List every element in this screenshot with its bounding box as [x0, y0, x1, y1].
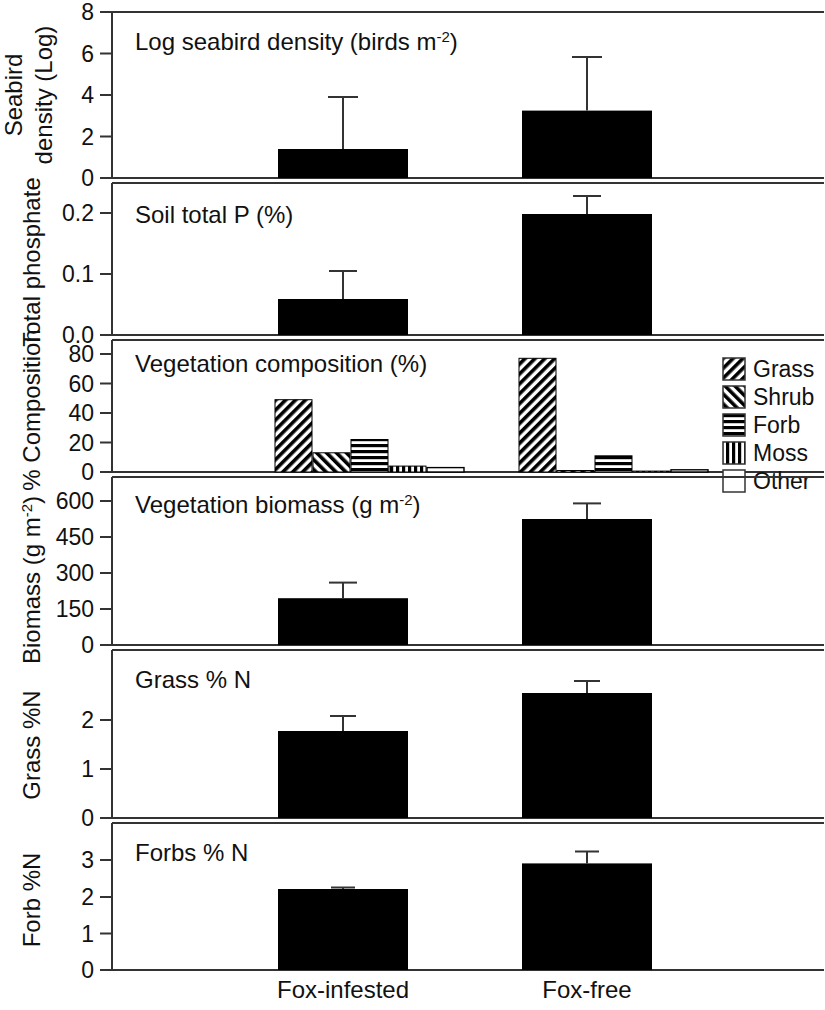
panel3-ytick-label-80: 80	[68, 341, 94, 367]
panel3-bar-shrub-fox-infested	[313, 453, 350, 472]
panel4-ytick-label-0: 0	[81, 632, 94, 658]
legend-swatch-forb	[723, 414, 745, 436]
panel3-bar-moss-fox-free	[633, 471, 670, 472]
panel6-axis-label: Forb %N	[18, 853, 45, 948]
panel2-bar-fox-free	[522, 214, 652, 335]
legend-label-grass: Grass	[753, 356, 814, 382]
panel3-ytick-label-20: 20	[68, 430, 94, 456]
xaxis-label-fox-free: Fox-free	[542, 976, 631, 1003]
panel6-title: Forbs % N	[135, 839, 248, 866]
legend-label-other: Other	[753, 468, 811, 494]
panel3-bar-other-fox-free	[671, 470, 708, 472]
panel3-ytick-label-60: 60	[68, 371, 94, 397]
panel6-bar-fox-free	[522, 863, 652, 970]
xaxis-label-fox-infested: Fox-infested	[277, 976, 409, 1003]
panel4-axis-label: Biomass (g m-2)	[18, 496, 45, 664]
legend-label-moss: Moss	[753, 440, 808, 466]
legend-item-other: Other	[723, 468, 811, 494]
panel4-bar-fox-infested	[278, 598, 408, 645]
panel3-bar-forb-fox-infested	[351, 440, 388, 473]
panel6-bar-fox-infested	[278, 889, 408, 970]
panel2-bar-fox-infested	[278, 299, 408, 335]
panel5-bar-fox-free	[522, 693, 652, 818]
panel1-ytick-label-8: 8	[81, 0, 94, 25]
panel2-axis-label: Total phosphate	[18, 177, 45, 346]
panel3-bar-moss-fox-infested	[389, 466, 426, 472]
panel1-ytick-label-2: 2	[81, 124, 94, 150]
panel4-ytick-label-450: 450	[56, 524, 94, 550]
panel4-ytick-label-600: 600	[56, 488, 94, 514]
panel3-axis-label: % Composition	[18, 329, 45, 490]
panel1-bar-fox-infested	[278, 149, 408, 178]
panel4-bar-fox-free	[522, 519, 652, 645]
panel6-ytick-label-3: 3	[81, 847, 94, 873]
panel3-bar-forb-fox-free	[595, 456, 632, 472]
panel1-axis-label-line1: Seabird	[0, 54, 27, 137]
panel3-ytick-label-40: 40	[68, 400, 94, 426]
panel1-ytick-label-4: 4	[81, 82, 94, 108]
panel6-ytick-label-0: 0	[81, 957, 94, 983]
legend-item-shrub: Shrub	[723, 384, 814, 410]
panel6-ytick-label-2: 2	[81, 884, 94, 910]
panel3-bar-shrub-fox-free	[557, 471, 594, 473]
panel3-ytick-label-0: 0	[81, 459, 94, 485]
legend-label-shrub: Shrub	[753, 384, 814, 410]
panel4-ytick-label-300: 300	[56, 560, 94, 586]
panel3-bar-other-fox-infested	[427, 468, 464, 472]
panel4-ytick-label-150: 150	[56, 596, 94, 622]
legend-label-forb: Forb	[753, 412, 800, 438]
legend-swatch-other	[723, 470, 745, 492]
panel1-bar-fox-free	[522, 111, 652, 178]
panel3-title: Vegetation composition (%)	[135, 350, 427, 377]
legend-swatch-shrub	[723, 386, 745, 408]
panel1-ytick-label-0: 0	[81, 165, 94, 191]
legend-swatch-grass	[723, 358, 745, 380]
panel5-ytick-label-1: 1	[81, 756, 94, 782]
panel5-ytick-label-0: 0	[81, 805, 94, 831]
figure-container: 8 6 4 2 0 Seabird density (Log) Log seab…	[0, 0, 825, 1010]
panel3-bar-grass-fox-free	[519, 358, 556, 472]
legend-item-forb: Forb	[723, 412, 800, 438]
panel2-ytick-label-01: 0.1	[62, 261, 94, 287]
panel4-title: Vegetation biomass (g m-2)	[135, 491, 420, 518]
panel3-bar-grass-fox-infested	[275, 400, 312, 472]
legend-item-grass: Grass	[723, 356, 814, 382]
panel1-axis-label-line2: density (Log)	[30, 26, 57, 165]
panel5-bar-fox-infested	[278, 731, 408, 818]
panel6-ytick-label-1: 1	[81, 921, 94, 947]
panel2-title: Soil total P (%)	[135, 201, 293, 228]
panel1-ytick-label-6: 6	[81, 41, 94, 67]
multi-panel-bar-chart: 8 6 4 2 0 Seabird density (Log) Log seab…	[0, 0, 825, 1010]
panel5-title: Grass % N	[135, 666, 251, 693]
legend-item-moss: Moss	[723, 440, 808, 466]
panel5-ytick-label-2: 2	[81, 707, 94, 733]
panel1-title: Log seabird density (birds m-2)	[135, 28, 458, 55]
panel2-ytick-label-02: 0.2	[62, 200, 94, 226]
legend-swatch-moss	[723, 442, 745, 464]
panel5-axis-label: Grass %N	[18, 690, 45, 799]
